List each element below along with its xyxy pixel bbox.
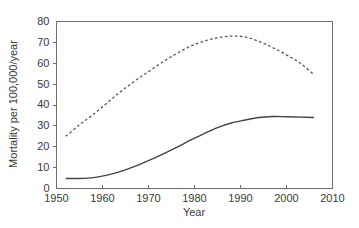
x-axis-tick-labels: 1950196019701980199020002010 xyxy=(44,192,344,204)
plot-border xyxy=(57,22,333,189)
x-tick-label: 2000 xyxy=(274,192,298,204)
x-tick-label: 1990 xyxy=(228,192,252,204)
y-tick-label: 30 xyxy=(37,119,49,131)
y-tick-label: 80 xyxy=(37,15,49,27)
x-tick-label: 1960 xyxy=(90,192,114,204)
y-tick-label: 40 xyxy=(37,98,49,110)
series-line-dashed-series xyxy=(66,36,314,136)
data-series-group xyxy=(66,36,314,178)
x-tick-label: 1950 xyxy=(44,192,68,204)
chart-figure: 01020304050607080 1950196019701980199020… xyxy=(0,0,359,228)
plot-frame xyxy=(57,22,333,189)
chart-canvas: 01020304050607080 1950196019701980199020… xyxy=(0,0,359,228)
x-tick-label: 1980 xyxy=(182,192,206,204)
x-tick-label: 2010 xyxy=(320,192,344,204)
y-axis-title: Mortality per 100,000/year xyxy=(7,40,19,168)
y-tick-label: 70 xyxy=(37,36,49,48)
series-line-solid-series xyxy=(66,116,314,178)
y-axis-ticks xyxy=(53,42,57,167)
y-tick-label: 10 xyxy=(37,161,49,173)
x-axis-ticks xyxy=(103,185,287,189)
y-axis-tick-labels: 01020304050607080 xyxy=(37,15,49,194)
y-tick-label: 20 xyxy=(37,140,49,152)
x-tick-label: 1970 xyxy=(136,192,160,204)
y-tick-label: 60 xyxy=(37,57,49,69)
y-tick-label: 50 xyxy=(37,78,49,90)
x-axis-title: Year xyxy=(183,206,206,218)
